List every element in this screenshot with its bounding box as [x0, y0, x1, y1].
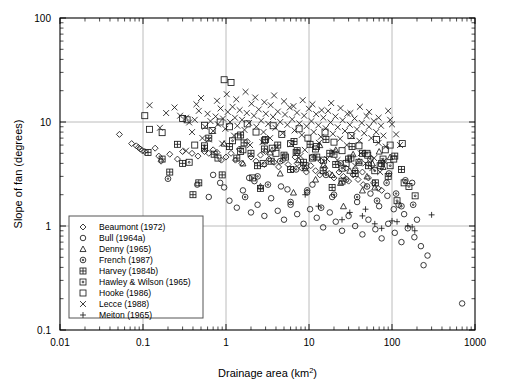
plot-svg: 0.010.111010010000.1110100Drainage area … — [0, 0, 509, 392]
y-tick-label: 1 — [45, 221, 51, 232]
y-axis-title: Slope of fan (degrees) — [12, 120, 24, 229]
y-tick-label: 0.1 — [37, 325, 51, 336]
x-tick-label: 1 — [223, 337, 229, 348]
x-tick-label: 10 — [303, 337, 315, 348]
legend-label: Denny (1965) — [99, 244, 151, 254]
legend-label: Meiton (1965) — [99, 310, 152, 320]
legend-label: Harvey (1984b) — [99, 266, 158, 276]
y-tick-label: 10 — [40, 117, 52, 128]
series-plus — [302, 192, 434, 234]
legend-label: French (1987) — [99, 255, 153, 265]
x-tick-label: 1000 — [464, 337, 487, 348]
legend-label: Bull (1964a) — [99, 233, 145, 243]
legend-label: Hooke (1986) — [99, 288, 151, 298]
scatter-plot-figure: 0.010.111010010000.1110100Drainage area … — [0, 0, 509, 392]
legend-label: Lecce (1988) — [99, 299, 149, 309]
legend-label: Hawley & Wilson (1965) — [99, 277, 191, 287]
x-tick-label: 0.1 — [136, 337, 150, 348]
series-cross-x — [147, 89, 403, 175]
series-circle — [194, 172, 464, 306]
x-axis-title: Drainage area (km2) — [218, 366, 317, 380]
x-tick-label: 100 — [384, 337, 401, 348]
x-tick-label: 0.01 — [50, 337, 70, 348]
legend-label: Beaumont (1972) — [99, 222, 166, 232]
y-tick-label: 100 — [34, 13, 51, 24]
legend: Beaumont (1972)Bull (1964a)Denny (1965)F… — [69, 216, 203, 320]
